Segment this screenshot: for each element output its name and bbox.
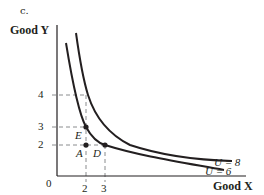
x-tick-2: 2 (82, 183, 88, 194)
point-e (83, 124, 88, 129)
point-label-e: E (75, 130, 82, 141)
point-label-a: A (76, 148, 83, 159)
point-a (83, 142, 88, 147)
axes (57, 25, 246, 176)
point-d (102, 142, 107, 147)
y-tick-3: 3 (38, 121, 44, 132)
origin-label: 0 (46, 178, 52, 189)
u6-text: U = 6 (205, 165, 231, 177)
x-tick-3: 3 (101, 183, 107, 194)
x-axis-title: Good X (213, 180, 253, 192)
y-axis-title: Good Y (10, 24, 49, 36)
curve-u6 (66, 43, 224, 170)
y-tick-4: 4 (38, 89, 44, 100)
y-tick-2: 2 (38, 139, 44, 150)
curve-label-u6: U = 6 (205, 166, 231, 177)
point-label-d: D (93, 148, 101, 159)
